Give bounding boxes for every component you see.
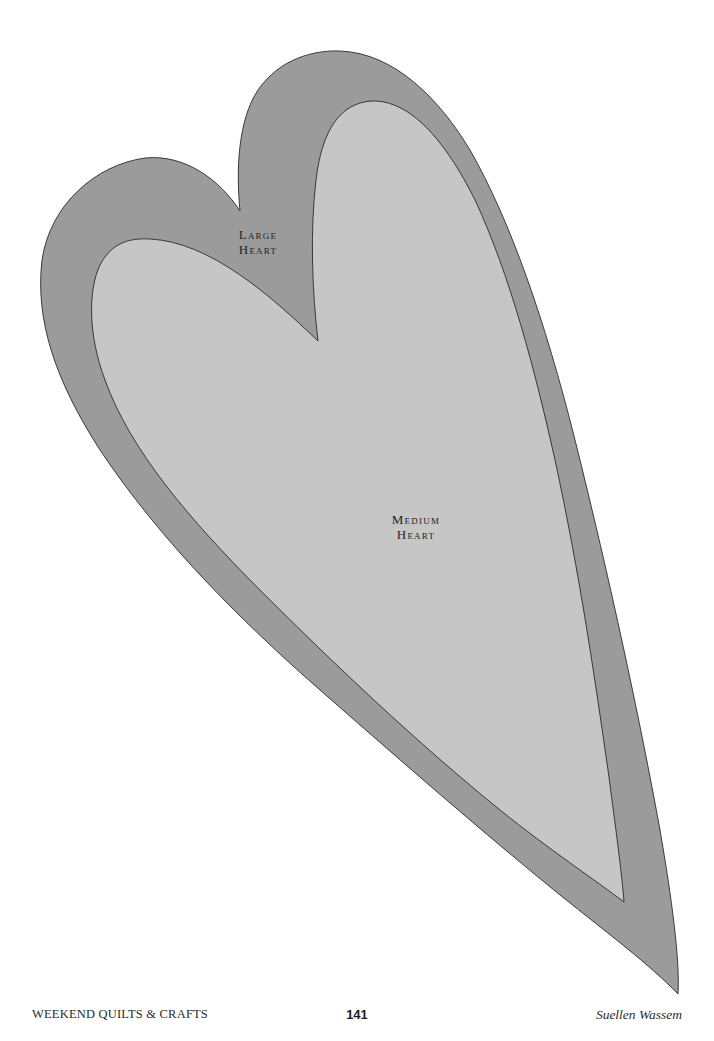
pattern-page: Large Heart Medium Heart WEEKEND QUILTS … [0,0,714,1041]
large-heart-label: Large Heart [218,227,298,257]
page-number: 141 [330,1007,384,1022]
author-name: Suellen Wassem [596,1007,682,1023]
large-heart-label-line1: Large [218,227,298,242]
heart-pattern-drawing [0,0,714,1041]
book-title: WEEKEND QUILTS & CRAFTS [32,1007,208,1022]
medium-heart-label: Medium Heart [376,512,456,542]
medium-heart-label-line2: Heart [376,527,456,542]
medium-heart-label-line1: Medium [376,512,456,527]
large-heart-label-line2: Heart [218,242,298,257]
page-footer: WEEKEND QUILTS & CRAFTS 141 Suellen Wass… [0,1007,714,1027]
